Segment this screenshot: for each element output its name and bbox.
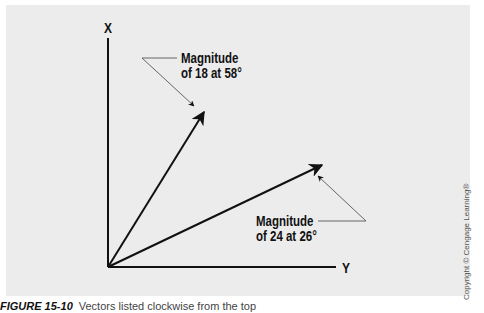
leader-line-24 (318, 176, 366, 221)
vector-diagram (0, 0, 484, 313)
copyright-notice: Copyright © Cengage Learning® (462, 184, 471, 300)
figure-caption-label: FIGURE 15-10 (0, 300, 73, 312)
vector-1-label-line1: Magnitude (181, 51, 242, 66)
x-axis-label: X (104, 19, 112, 36)
vector-2-label: Magnitude of 24 at 26° (256, 214, 317, 244)
vector-1-label: Magnitude of 18 at 58° (181, 51, 242, 81)
vector-2-label-line1: Magnitude (256, 214, 317, 229)
y-axis-label: Y (342, 259, 350, 276)
vector-1-label-line2: of 18 at 58° (181, 66, 242, 81)
figure-caption: FIGURE 15-10Vectors listed clockwise fro… (0, 300, 256, 312)
vector-2-label-line2: of 24 at 26° (256, 229, 317, 244)
figure-caption-text: Vectors listed clockwise from the top (79, 300, 256, 312)
